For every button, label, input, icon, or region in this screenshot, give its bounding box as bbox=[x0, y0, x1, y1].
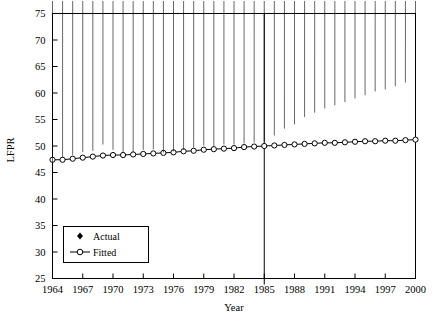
legend-label-actual: Actual bbox=[93, 231, 120, 242]
x-tick-label: 1988 bbox=[284, 284, 305, 295]
x-axis-title: Year bbox=[224, 302, 244, 313]
y-tick-label: 70 bbox=[35, 35, 46, 46]
fitted-data-point bbox=[120, 152, 125, 157]
x-tick-label: 1967 bbox=[72, 284, 93, 295]
fitted-data-point bbox=[322, 140, 327, 145]
fitted-data-point bbox=[342, 140, 347, 145]
fitted-data-point bbox=[302, 141, 307, 146]
fitted-data-point bbox=[201, 147, 206, 152]
fitted-data-point bbox=[60, 157, 65, 162]
y-axis: 2530354045505560657075 bbox=[35, 8, 58, 284]
fitted-data-point bbox=[393, 138, 398, 143]
legend-label-fitted: Fitted bbox=[93, 247, 116, 258]
y-axis-title: LFPR bbox=[5, 137, 16, 162]
x-tick-label: 1997 bbox=[375, 284, 396, 295]
fitted-data-point bbox=[241, 144, 246, 149]
chart-legend: Actual Fitted bbox=[64, 227, 149, 263]
fitted-data-point bbox=[70, 156, 75, 161]
fitted-data-point bbox=[191, 148, 196, 153]
fitted-data-point bbox=[221, 146, 226, 151]
y-tick-label: 75 bbox=[35, 8, 46, 19]
chart-container: 2530354045505560657075 19641967197019731… bbox=[0, 0, 438, 324]
x-tick-label: 1994 bbox=[345, 284, 367, 295]
y-tick-label: 30 bbox=[35, 247, 46, 258]
x-tick-label: 1970 bbox=[103, 284, 124, 295]
x-tick-label: 1976 bbox=[163, 284, 184, 295]
fitted-data-point bbox=[352, 139, 357, 144]
fitted-data-point bbox=[362, 139, 367, 144]
x-tick-label: 1973 bbox=[133, 284, 154, 295]
x-tick-label: 2000 bbox=[405, 284, 426, 295]
x-axis: 1964196719701973197619791982198519881991… bbox=[42, 274, 426, 295]
fitted-data-point bbox=[383, 138, 388, 143]
x-tick-label: 1979 bbox=[193, 284, 214, 295]
y-tick-label: 60 bbox=[35, 88, 46, 99]
fitted-data-point bbox=[80, 155, 85, 160]
y-tick-label: 55 bbox=[35, 114, 46, 125]
x-tick-label: 1964 bbox=[42, 284, 64, 295]
fitted-data-point bbox=[403, 138, 408, 143]
fitted-data-point bbox=[262, 143, 267, 148]
y-tick-label: 40 bbox=[35, 194, 46, 205]
fitted-data-point bbox=[272, 143, 277, 148]
series-actual-markers bbox=[53, 1, 416, 163]
y-tick-label: 65 bbox=[35, 61, 46, 72]
fitted-data-point bbox=[252, 144, 257, 149]
fitted-data-point bbox=[312, 141, 317, 146]
fitted-data-point bbox=[131, 152, 136, 157]
y-tick-label: 35 bbox=[35, 220, 46, 231]
x-tick-label: 1985 bbox=[254, 284, 275, 295]
fitted-data-point bbox=[211, 147, 216, 152]
fitted-data-point bbox=[100, 153, 105, 158]
fitted-data-point bbox=[151, 151, 156, 156]
fitted-data-point bbox=[292, 142, 297, 147]
fitted-data-point bbox=[90, 154, 95, 159]
y-tick-label: 50 bbox=[35, 141, 46, 152]
fitted-data-point bbox=[141, 151, 146, 156]
fitted-data-point bbox=[110, 152, 115, 157]
fitted-data-point bbox=[332, 140, 337, 145]
y-tick-label: 45 bbox=[35, 167, 46, 178]
lfpr-line-chart: 2530354045505560657075 19641967197019731… bbox=[0, 0, 438, 324]
fitted-data-point bbox=[282, 142, 287, 147]
x-tick-label: 1982 bbox=[224, 284, 245, 295]
fitted-data-point bbox=[373, 139, 378, 144]
legend-circle-icon bbox=[77, 249, 83, 255]
x-tick-label: 1991 bbox=[314, 284, 335, 295]
fitted-data-point bbox=[413, 137, 418, 142]
fitted-data-point bbox=[231, 146, 236, 151]
